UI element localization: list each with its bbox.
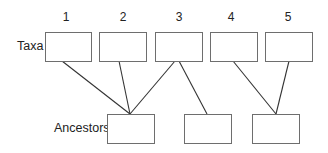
edge-1-a1 bbox=[62, 61, 130, 114]
ancestor-box-1 bbox=[107, 114, 155, 144]
taxon-number-4: 4 bbox=[228, 11, 235, 23]
taxon-box-2 bbox=[99, 32, 147, 62]
edge-4-a3 bbox=[233, 61, 276, 114]
taxa-row-label: Taxa bbox=[17, 39, 43, 53]
edge-5-a3 bbox=[276, 61, 289, 114]
taxon-box-4 bbox=[210, 32, 258, 62]
ancestors-row-label: Ancestors bbox=[54, 121, 110, 135]
diagram-canvas: 1 2 3 4 5 Taxa Ancestors bbox=[0, 0, 328, 153]
taxon-number-2: 2 bbox=[120, 11, 127, 23]
taxon-box-5 bbox=[265, 32, 313, 62]
taxon-number-1: 1 bbox=[63, 11, 70, 23]
ancestor-box-2 bbox=[184, 114, 232, 144]
taxon-box-3 bbox=[155, 32, 203, 62]
taxon-number-3: 3 bbox=[176, 11, 183, 23]
edge-3-a2 bbox=[179, 61, 207, 114]
taxon-box-1 bbox=[45, 32, 92, 62]
ancestor-box-3 bbox=[252, 114, 300, 144]
taxon-number-5: 5 bbox=[285, 11, 292, 23]
edge-3-a1 bbox=[130, 61, 175, 114]
